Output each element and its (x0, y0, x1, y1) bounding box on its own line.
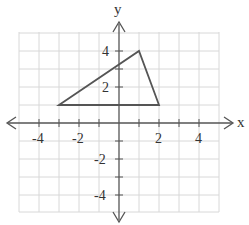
x-axis-label: x (237, 114, 245, 130)
y-tick-label: 2 (102, 80, 109, 95)
y-tick-label: -4 (94, 188, 106, 203)
triangle (59, 51, 159, 105)
x-tick-label: 4 (195, 131, 202, 146)
y-axis-label: y (114, 1, 122, 17)
coordinate-plane: y x -4 -2 2 4 4 2 -2 -4 (0, 0, 249, 225)
y-tick-label: 4 (102, 44, 109, 59)
y-tick-label: -2 (94, 152, 106, 167)
x-tick-label: -2 (72, 131, 84, 146)
x-tick-label: -4 (32, 131, 44, 146)
x-tick-label: 2 (155, 131, 162, 146)
